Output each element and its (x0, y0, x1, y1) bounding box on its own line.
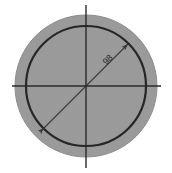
technical-drawing-canvas: 98 (0, 0, 172, 173)
center-point-marker (85, 85, 88, 88)
circle-diameter-diagram: 98 (0, 0, 172, 173)
